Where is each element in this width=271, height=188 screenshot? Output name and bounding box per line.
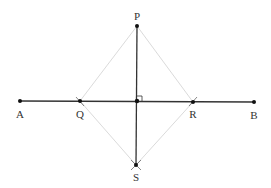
line-pr [137, 26, 193, 102]
perpendicular-bisector-diagram: P A Q R B S [0, 0, 271, 188]
point-p [135, 24, 139, 28]
point-r [191, 100, 195, 104]
line-qs [80, 101, 136, 165]
point-a [18, 99, 22, 103]
point-s [134, 163, 138, 167]
segment-ps [136, 26, 137, 165]
point-b [252, 100, 256, 104]
main-lines [20, 26, 254, 165]
line-rs [136, 102, 193, 165]
label-p: P [134, 10, 140, 22]
label-r: R [189, 108, 197, 120]
label-b: B [250, 109, 257, 121]
line-pq [80, 26, 137, 101]
point-q [78, 99, 82, 103]
label-a: A [16, 108, 24, 120]
label-q: Q [76, 108, 84, 120]
label-s: S [133, 171, 139, 183]
point-m [135, 99, 139, 103]
